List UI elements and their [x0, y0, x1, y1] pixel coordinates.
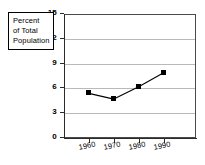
x-tick-label: 1980	[128, 140, 146, 151]
gridline	[65, 64, 195, 65]
y-tick-mark	[60, 38, 64, 39]
legend-line-3: Population	[13, 36, 50, 46]
y-tick-label-wrap: 3	[0, 108, 57, 116]
y-tick-label-wrap: 9	[0, 59, 57, 67]
x-tick-label: 1990	[153, 140, 171, 151]
legend-line-2: of Total	[13, 26, 50, 36]
data-point-marker	[86, 90, 91, 95]
data-point-marker	[111, 96, 116, 101]
legend-line-1: Percent	[13, 16, 50, 26]
data-point-marker	[136, 84, 141, 89]
y-tick-label: 9	[0, 59, 57, 67]
plot-area	[64, 14, 196, 138]
data-point-marker	[161, 70, 166, 75]
y-tick-label-wrap: 6	[0, 83, 57, 91]
chart-container: Percent of Total Population 03691215 196…	[0, 0, 205, 165]
y-tick-mark	[60, 137, 64, 138]
x-axis	[64, 138, 197, 139]
legend-box: Percent of Total Population	[8, 12, 54, 50]
y-tick-mark	[60, 63, 64, 64]
x-tick-label: 1970	[103, 140, 121, 151]
x-tick-label: 1960	[78, 140, 96, 151]
y-tick-label-wrap: 0	[0, 133, 57, 141]
y-tick-label: 3	[0, 108, 57, 116]
y-axis	[64, 14, 65, 139]
y-tick-mark	[60, 13, 64, 14]
gridline	[65, 39, 195, 40]
y-tick-label: 0	[0, 133, 57, 141]
y-tick-mark	[60, 87, 64, 88]
gridline	[65, 113, 195, 114]
y-tick-mark	[60, 112, 64, 113]
gridline	[65, 88, 195, 89]
y-tick-label: 6	[0, 83, 57, 91]
